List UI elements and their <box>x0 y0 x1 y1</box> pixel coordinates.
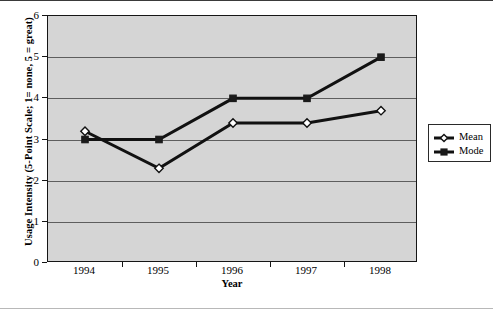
y-axis-tick-mark <box>42 97 47 98</box>
data-point-mean <box>377 106 385 114</box>
x-axis-tick-label: 1998 <box>369 264 391 276</box>
series-layer <box>48 16 418 263</box>
y-axis-tick-label: 4 <box>34 91 40 103</box>
y-axis-tick-mark <box>42 180 47 181</box>
y-axis-tick-label: 2 <box>34 174 40 186</box>
y-axis-tick-mark <box>42 221 47 222</box>
chart-figure: Usage Intensity (5-Point Scale; 1= none,… <box>0 0 493 309</box>
x-axis-tick-label: 1997 <box>295 264 317 276</box>
legend-item-mean[interactable]: Mean <box>433 129 484 143</box>
y-axis-title: Usage Intensity (5-Point Scale; 1= none,… <box>23 7 34 257</box>
data-point-mean <box>303 119 311 127</box>
data-point-mode <box>82 136 88 142</box>
data-point-mode <box>304 95 310 101</box>
data-point-mode <box>156 136 162 142</box>
y-axis-tick-mark <box>42 262 47 263</box>
x-axis-tick-label: 1996 <box>221 264 243 276</box>
legend-label: Mode <box>459 145 484 156</box>
legend-label: Mean <box>459 131 483 142</box>
data-point-mode <box>230 95 236 101</box>
y-axis-tick-label: 0 <box>34 256 40 268</box>
legend-marker-open-diamond-icon <box>433 130 455 142</box>
y-axis-tick-mark <box>42 15 47 16</box>
y-axis-tick-label: 1 <box>34 215 40 227</box>
legend-marker-filled-square-icon <box>433 144 455 156</box>
x-axis-title: Year <box>222 278 243 289</box>
y-axis-tick-mark <box>42 56 47 57</box>
data-point-mode <box>378 54 384 60</box>
chart-legend: MeanMode <box>428 124 491 162</box>
plot-inner <box>48 16 416 261</box>
y-axis-tick-mark <box>42 139 47 140</box>
y-axis-tick-label: 6 <box>34 9 40 21</box>
x-axis-tick-label: 1995 <box>147 264 169 276</box>
y-axis-tick-label: 5 <box>34 50 40 62</box>
legend-item-mode[interactable]: Mode <box>433 143 484 157</box>
y-axis-tick-label: 3 <box>34 133 40 145</box>
x-axis-tick-label: 1994 <box>73 264 95 276</box>
plot-area <box>47 15 417 262</box>
